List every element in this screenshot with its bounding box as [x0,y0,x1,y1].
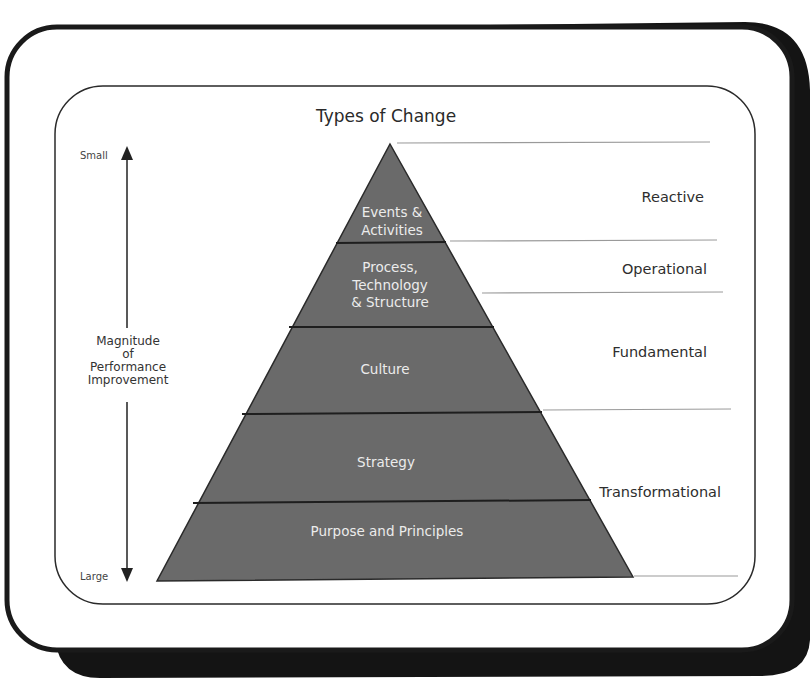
pyramid-level-strategy: Strategy [357,454,415,470]
svg-text:Technology: Technology [351,277,428,293]
change-type-operational: Operational [622,261,707,277]
diagram-title: Types of Change [315,106,456,126]
svg-text:Purpose and Principles: Purpose and Principles [311,523,464,539]
svg-text:of: of [122,347,134,361]
svg-text:& Structure: & Structure [351,294,429,310]
change-type-reactive: Reactive [642,189,704,205]
change-type-transformational: Transformational [598,484,721,500]
pyramid-level-purpose: Purpose and Principles [311,523,464,539]
pyramid-level-process: Process, Technology & Structure [351,259,429,310]
axis-label-small: Small [80,150,108,161]
svg-text:Improvement: Improvement [88,373,169,387]
types-of-change-diagram: Types of Change Small Large Magnitude of… [0,0,811,695]
svg-text:Magnitude: Magnitude [96,334,160,348]
svg-text:Activities: Activities [361,222,423,238]
svg-text:Performance: Performance [90,360,166,374]
axis-label-large: Large [80,571,108,582]
svg-text:Events &: Events & [362,204,423,220]
pyramid-level-culture: Culture [360,361,409,377]
svg-text:Process,: Process, [362,259,418,275]
change-type-fundamental: Fundamental [612,344,707,360]
svg-text:Culture: Culture [360,361,409,377]
axis-label-magnitude: Magnitude of Performance Improvement [88,334,169,387]
svg-text:Strategy: Strategy [357,454,415,470]
